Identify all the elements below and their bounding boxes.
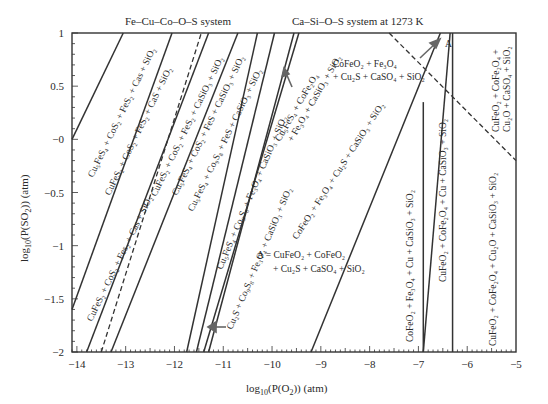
x-tick-label: −5 xyxy=(510,358,522,370)
region-label: CuFeS₂ + CoS₂ + Fes₂ + Cas + SiO₂ xyxy=(85,194,155,323)
y-tick-label: −1 xyxy=(52,240,64,252)
region-label: CuFeO₂ + CoFe₂O₄ + Cu₂O + CaSO₄ + SiO₂ xyxy=(491,46,512,132)
region-label: CuFeO₂ + CoFe₂O₄ + Cu + CaSiO₃ + SiO₂ xyxy=(438,119,448,282)
y-tick-label: −0 xyxy=(52,133,64,145)
x-tick-label: −11 xyxy=(215,358,232,370)
region-label: CuFeO₂ + CoFe₂O₄ + Cu₂O + CaSiO₃ + SiO₂ xyxy=(488,173,498,346)
y-tick-label: −1.5 xyxy=(44,293,64,305)
x-tick-label: −10 xyxy=(263,358,281,370)
annotation-a: A xyxy=(445,39,452,49)
chart-title-right: Ca–Si–O–S system at 1273 K xyxy=(292,15,423,27)
chart-title-left: Fe–Cu–Co–O–S system xyxy=(125,15,231,27)
y-tick-label: −0.5 xyxy=(44,187,64,199)
region-labels: Cu₅FeS₄ + CoS₂ + FeS₂ + Cas + SiO₂ CuFeS… xyxy=(85,46,512,346)
y-tick-label: −2 xyxy=(52,346,64,358)
x-axis-title: log10(P(O2)) (atm) xyxy=(246,382,328,397)
x-tick-label: −12 xyxy=(166,358,183,370)
region-label: A = CuFeO₂ + CoFeO₂ + Cu₂S + CaSO₄ + SiO… xyxy=(257,250,365,274)
y-tick-label: 0.5 xyxy=(50,80,64,92)
x-tick-label: −7 xyxy=(413,358,425,370)
region-label: CoFeO₂ + Fe₃O₄ + Cu + CaSiO₃ + SiO₂ xyxy=(405,190,415,342)
x-tick-label: −13 xyxy=(117,358,135,370)
region-label: CoFeO₂ + Fe₃O₄ + Cu₂S + CaSO₄ + SiO₂ xyxy=(333,59,425,82)
x-tick-label: −9 xyxy=(315,358,327,370)
x-tick-label: −14 xyxy=(68,358,86,370)
x-tick-label: −6 xyxy=(461,358,473,370)
y-axis-title: log10(P(SO2)) (atm) xyxy=(18,174,33,262)
y-tick-label: 1 xyxy=(59,27,65,39)
x-tick-label: −8 xyxy=(364,358,376,370)
phase-diagram-chart: Fe–Cu–Co–O–S system Ca–Si–O–S system at … xyxy=(0,0,548,404)
